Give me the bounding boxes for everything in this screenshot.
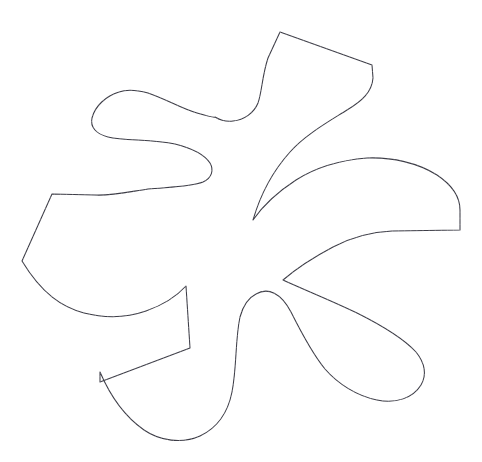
shape-outline-svg: Single closed freehand outline resemblin… (0, 0, 482, 462)
drawing-canvas: Flower-like closed outline drawing Singl… (0, 0, 482, 462)
